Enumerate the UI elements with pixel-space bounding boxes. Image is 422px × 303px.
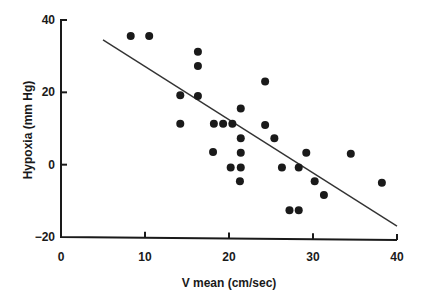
trend-line xyxy=(103,40,397,226)
data-point xyxy=(237,149,245,157)
data-point xyxy=(378,179,386,187)
data-point xyxy=(261,121,269,129)
data-point xyxy=(311,177,319,185)
data-point xyxy=(347,150,355,158)
data-point xyxy=(278,164,286,172)
data-point xyxy=(295,164,303,172)
data-point xyxy=(302,149,310,157)
data-points xyxy=(127,32,386,214)
data-point xyxy=(237,164,245,172)
y-tick-label: −20 xyxy=(35,230,56,244)
y-tick-label: 0 xyxy=(48,158,55,172)
data-point xyxy=(176,120,184,128)
data-point xyxy=(210,120,218,128)
y-axis-title: Hypoxia (mm Hg) xyxy=(21,81,35,180)
x-tick-label: 20 xyxy=(222,250,236,264)
data-point xyxy=(285,206,293,214)
data-point xyxy=(145,32,153,40)
data-point xyxy=(320,191,328,199)
data-point xyxy=(228,120,236,128)
axes xyxy=(61,20,397,240)
data-point xyxy=(295,206,303,214)
data-point xyxy=(227,164,235,172)
data-point xyxy=(194,62,202,70)
x-tick-label: 40 xyxy=(390,250,404,264)
data-point xyxy=(209,148,217,156)
data-point xyxy=(270,134,278,142)
x-tick-label: 30 xyxy=(306,250,320,264)
x-tick-label: 10 xyxy=(138,250,152,264)
data-point xyxy=(127,32,135,40)
y-axis-line xyxy=(61,20,397,240)
data-point xyxy=(237,105,245,113)
x-axis-title: V mean (cm/sec) xyxy=(182,276,277,290)
data-point xyxy=(261,77,269,85)
data-point xyxy=(237,134,245,142)
y-axis-ticks: −2002040 xyxy=(35,13,67,244)
x-tick-label: 0 xyxy=(58,250,65,264)
regression-line xyxy=(103,40,397,226)
data-point xyxy=(194,92,202,100)
data-point xyxy=(236,177,244,185)
y-tick-label: 20 xyxy=(42,85,56,99)
scatter-chart: −2002040 010203040 V mean (cm/sec) Hypox… xyxy=(0,0,422,303)
y-tick-label: 40 xyxy=(42,13,56,27)
data-point xyxy=(194,48,202,56)
data-point xyxy=(176,91,184,99)
data-point xyxy=(219,120,227,128)
